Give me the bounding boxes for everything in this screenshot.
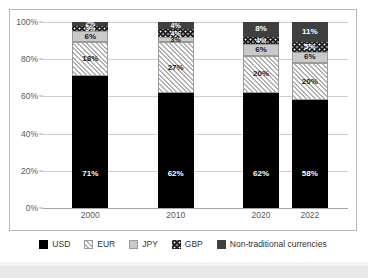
bar-segment-2020-non-traditional-currencies[interactable]: 8% xyxy=(243,22,279,37)
bar-segment-label-2020-gbp: 4% xyxy=(256,37,266,44)
legend-label-gbp: GBP xyxy=(185,239,203,249)
bar-segment-label-2022-non-traditional-currencies: 11% xyxy=(302,28,318,36)
bar-segment-2010-eur[interactable]: 27% xyxy=(158,42,194,92)
y-tick-mark-20 xyxy=(39,170,43,171)
bar-2020[interactable]: 8%4%6%20%62% xyxy=(243,22,279,208)
bar-segment-2020-gbp[interactable]: 4% xyxy=(243,37,279,44)
bar-segment-label-2022-usd: 58% xyxy=(302,170,318,178)
bar-segment-2022-non-traditional-currencies[interactable]: 11% xyxy=(292,22,328,42)
y-tick-label-20: 20% xyxy=(21,166,38,176)
legend-label-jpy: JPY xyxy=(142,239,158,249)
bar-2010[interactable]: 4%4%3%27%62% xyxy=(158,22,194,208)
chart-legend: USD EUR JPY GBP Non-traditional currenci… xyxy=(9,236,357,252)
bar-segment-label-2022-eur: 20% xyxy=(302,78,318,86)
y-tick-mark-60 xyxy=(39,96,43,97)
x-axis-label-2022: 2022 xyxy=(292,210,328,220)
bar-segment-2022-jpy[interactable]: 6% xyxy=(292,52,328,63)
chart-plot-area: 0%20%40%60%80%100%2%3%6%18%71%4%4%3%27%6… xyxy=(43,22,348,208)
bar-segment-label-2020-usd: 62% xyxy=(253,170,269,178)
legend-swatch-gbp xyxy=(172,240,181,249)
legend-item-non-traditional-currencies[interactable]: Non-traditional currencies xyxy=(217,239,327,249)
bar-segment-label-2010-non-traditional-currencies: 4% xyxy=(171,22,181,29)
bar-segment-label-2000-usd: 71% xyxy=(82,170,98,178)
bar-segment-label-2000-eur: 18% xyxy=(82,55,98,63)
bar-segment-label-2010-eur: 27% xyxy=(168,64,184,72)
legend-item-usd[interactable]: USD xyxy=(39,239,70,249)
bar-segment-label-2010-jpy: 3% xyxy=(171,36,181,43)
bar-segment-2020-usd[interactable]: 62% xyxy=(243,93,279,208)
bar-segment-label-2022-jpy: 6% xyxy=(304,53,316,61)
legend-label-non-traditional-currencies: Non-traditional currencies xyxy=(230,239,327,249)
legend-swatch-usd xyxy=(39,240,48,249)
x-axis-line xyxy=(43,208,348,209)
y-tick-label-60: 60% xyxy=(21,91,38,101)
bar-segment-label-2000-gbp: 3% xyxy=(85,25,95,32)
bar-segment-2000-jpy[interactable]: 6% xyxy=(72,31,108,42)
legend-item-eur[interactable]: EUR xyxy=(84,239,115,249)
legend-item-gbp[interactable]: GBP xyxy=(172,239,203,249)
bar-segment-label-2020-jpy: 6% xyxy=(255,46,267,54)
x-axis-label-2010: 2010 xyxy=(158,210,194,220)
x-axis-label-2000: 2000 xyxy=(72,210,108,220)
bar-segment-label-2020-non-traditional-currencies: 8% xyxy=(255,25,267,33)
bar-segment-label-2020-eur: 20% xyxy=(253,70,269,78)
legend-swatch-eur xyxy=(84,240,93,249)
legend-swatch-ntc xyxy=(217,240,226,249)
footer-strip xyxy=(0,266,368,278)
y-tick-label-80: 80% xyxy=(21,54,38,64)
legend-item-jpy[interactable]: JPY xyxy=(129,239,158,249)
bar-segment-2000-usd[interactable]: 71% xyxy=(72,76,108,208)
bar-segment-2020-jpy[interactable]: 6% xyxy=(243,44,279,55)
y-tick-mark-100 xyxy=(39,22,43,23)
x-axis-labels: 2000201020202022 xyxy=(43,210,348,224)
y-tick-mark-40 xyxy=(39,133,43,134)
y-tick-mark-80 xyxy=(39,59,43,60)
bar-segment-label-2010-usd: 62% xyxy=(168,170,184,178)
bar-segment-2000-eur[interactable]: 18% xyxy=(72,42,108,75)
bar-segment-2022-gbp[interactable]: 5% xyxy=(292,42,328,51)
legend-label-usd: USD xyxy=(52,239,70,249)
legend-label-eur: EUR xyxy=(97,239,115,249)
bar-segment-2020-eur[interactable]: 20% xyxy=(243,56,279,93)
x-axis-label-2020: 2020 xyxy=(243,210,279,220)
bar-segment-2010-usd[interactable]: 62% xyxy=(158,93,194,208)
bar-segment-label-2000-jpy: 6% xyxy=(84,33,96,41)
y-tick-label-0: 0% xyxy=(26,203,38,213)
bar-segment-2022-usd[interactable]: 58% xyxy=(292,100,328,208)
bar-segment-label-2022-gbp: 5% xyxy=(304,43,316,51)
chart-figure: 0%20%40%60%80%100%2%3%6%18%71%4%4%3%27%6… xyxy=(0,0,368,278)
y-tick-label-40: 40% xyxy=(21,129,38,139)
y-tick-mark-0 xyxy=(39,208,43,209)
bar-2022[interactable]: 11%5%6%20%58% xyxy=(292,22,328,208)
bar-segment-2022-eur[interactable]: 20% xyxy=(292,63,328,100)
bar-2000[interactable]: 2%3%6%18%71% xyxy=(72,22,108,208)
bar-segment-2010-non-traditional-currencies[interactable]: 4% xyxy=(158,22,194,29)
y-tick-label-100: 100% xyxy=(16,17,38,27)
legend-swatch-jpy xyxy=(129,240,138,249)
